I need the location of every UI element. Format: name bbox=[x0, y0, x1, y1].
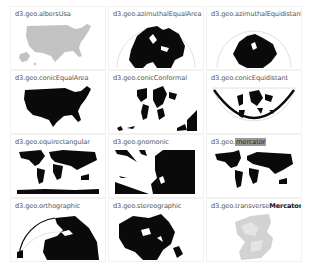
world-map-thumbnail bbox=[211, 148, 297, 196]
world-map-thumbnail bbox=[113, 148, 199, 196]
search-match-highlight: mercator bbox=[235, 138, 266, 146]
usa-map-thumbnail bbox=[15, 84, 101, 132]
tile-label: d3.geo.mercator bbox=[211, 138, 266, 146]
world-map-thumbnail bbox=[211, 84, 297, 132]
globe-map-thumbnail bbox=[113, 20, 199, 68]
tile-label: d3.geo.stereographic bbox=[113, 202, 181, 210]
tile-label: d3.geo.conicEqualArea bbox=[15, 74, 89, 82]
tile-equirectangular[interactable]: d3.geo.equirectangular bbox=[10, 134, 106, 198]
globe-map-thumbnail bbox=[15, 212, 101, 260]
tile-transverse-mercator[interactable]: d3.geo.transverseMercator bbox=[206, 198, 302, 262]
tile-conic-conformal[interactable]: d3.geo.conicConformal bbox=[108, 70, 204, 134]
tile-label: d3.geo.equirectangular bbox=[15, 138, 90, 146]
world-map-thumbnail bbox=[211, 212, 297, 260]
tile-stereographic[interactable]: d3.geo.stereographic bbox=[108, 198, 204, 262]
tile-label: d3.geo.azimuthalEquidistant bbox=[211, 10, 302, 18]
tile-mercator[interactable]: d3.geo.mercator bbox=[206, 134, 302, 198]
world-map-thumbnail bbox=[15, 148, 101, 196]
tile-label: d3.geo.orthographic bbox=[15, 202, 80, 210]
globe-map-thumbnail bbox=[211, 20, 297, 68]
tile-azimuthal-equal-area[interactable]: d3.geo.azimuthalEqualArea bbox=[108, 6, 204, 70]
search-match-highlight: Mercator bbox=[269, 202, 302, 210]
tile-albers-usa[interactable]: d3.geo.albersUsa bbox=[10, 6, 106, 70]
world-map-thumbnail bbox=[113, 212, 199, 260]
tile-label: d3.geo.albersUsa bbox=[15, 10, 71, 18]
tile-label: d3.geo.conicConformal bbox=[113, 74, 187, 82]
tile-conic-equidistant[interactable]: d3.geo.conicEquidistant bbox=[206, 70, 302, 134]
tile-azimuthal-equidistant[interactable]: d3.geo.azimuthalEquidistant bbox=[206, 6, 302, 70]
tile-label: d3.geo.gnomonic bbox=[113, 138, 169, 146]
tile-label: d3.geo.azimuthalEqualArea bbox=[113, 10, 201, 18]
world-map-thumbnail bbox=[113, 84, 199, 132]
usa-map-thumbnail bbox=[15, 20, 101, 68]
projection-gallery: d3.geo.albersUsa d3.geo.azimuthalEqualAr… bbox=[10, 6, 302, 262]
tile-label: d3.geo.conicEquidistant bbox=[211, 74, 288, 82]
tile-label: d3.geo.transverseMercator bbox=[211, 202, 302, 210]
tile-gnomonic[interactable]: d3.geo.gnomonic bbox=[108, 134, 204, 198]
tile-conic-equal-area[interactable]: d3.geo.conicEqualArea bbox=[10, 70, 106, 134]
tile-orthographic[interactable]: d3.geo.orthographic bbox=[10, 198, 106, 262]
